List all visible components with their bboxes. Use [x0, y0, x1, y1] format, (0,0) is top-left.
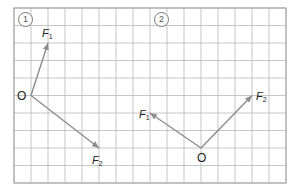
vector-f1-panel-1	[31, 43, 48, 96]
grid-lines	[14, 8, 286, 183]
panel-2-number: 2	[154, 12, 169, 27]
vector-f2-panel-2	[201, 96, 252, 149]
origin-label-panel-2: O	[197, 151, 206, 165]
origin-label-panel-1: O	[17, 89, 26, 103]
panel-1-number: 1	[18, 12, 33, 27]
vector-label-f1-panel-1: F1	[42, 28, 53, 40]
vector-label-f1-panel-2: F1	[139, 109, 150, 121]
force-vector-diagram: 1F1F2O2F1F2O	[0, 0, 303, 194]
vector-label-f2-panel-2: F2	[256, 91, 267, 103]
vector-label-f2-panel-1: F2	[92, 155, 103, 167]
